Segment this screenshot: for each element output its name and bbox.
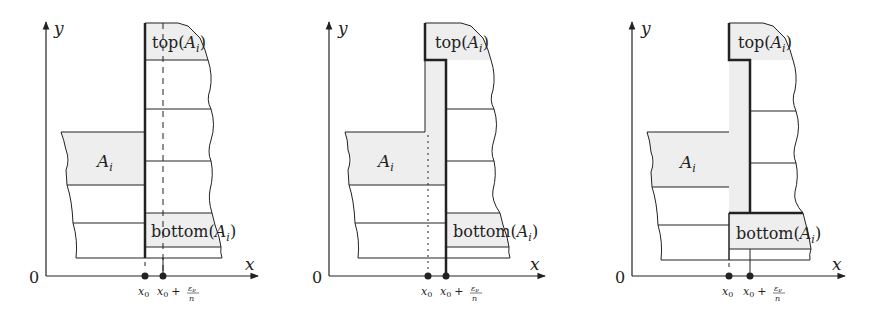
eps-numerator: εν bbox=[188, 284, 196, 293]
bottom-label: bottom(Ai) bbox=[453, 222, 538, 244]
x1-label: x0+ bbox=[440, 285, 464, 299]
n-denominator: n bbox=[775, 294, 780, 303]
diagram-canvas: y x 0 Ai top(Ai) bottom(Ai) x0 x0+ εν n … bbox=[0, 0, 883, 313]
x0-label: x0 bbox=[722, 285, 733, 299]
bottom-label: bottom(Ai) bbox=[151, 222, 236, 244]
x0-point bbox=[726, 273, 733, 280]
eps-numerator: εν bbox=[471, 284, 479, 293]
origin-label: 0 bbox=[29, 268, 39, 287]
strip-and-left-set-shaded bbox=[647, 60, 750, 213]
x1-point bbox=[443, 273, 450, 280]
x0-label: x0 bbox=[421, 285, 432, 299]
x1-label: x0+ bbox=[157, 285, 181, 299]
y-axis-label: y bbox=[53, 18, 64, 38]
bottom-label: bottom(Ai) bbox=[736, 224, 821, 246]
x0-point bbox=[142, 273, 149, 280]
y-axis-label: y bbox=[337, 18, 348, 38]
eps-numerator: εν bbox=[774, 284, 782, 293]
n-denominator: n bbox=[189, 294, 194, 303]
x-axis-label: x bbox=[245, 254, 255, 274]
y-axis-label: y bbox=[640, 18, 651, 38]
panel-2: y x 0 Ai top(Ai) bottom(Ai) x0 x0+ εν n bbox=[312, 18, 545, 303]
x0-label: x0 bbox=[138, 285, 149, 299]
x1-label: x0+ bbox=[743, 285, 767, 299]
origin-label: 0 bbox=[615, 268, 625, 287]
n-denominator: n bbox=[472, 294, 477, 303]
x0-point bbox=[425, 273, 432, 280]
panel-3: y x 0 Ai top(Ai) bottom(Ai) x0 x0+ εν n bbox=[615, 18, 845, 303]
x1-point bbox=[160, 273, 167, 280]
x1-point bbox=[747, 273, 754, 280]
strip-and-left-set-shaded bbox=[345, 60, 446, 185]
panel-1: y x 0 Ai top(Ai) bottom(Ai) x0 x0+ εν n bbox=[29, 18, 258, 303]
x-axis-label: x bbox=[832, 254, 842, 274]
x-axis-label: x bbox=[530, 254, 540, 274]
origin-label: 0 bbox=[312, 268, 322, 287]
